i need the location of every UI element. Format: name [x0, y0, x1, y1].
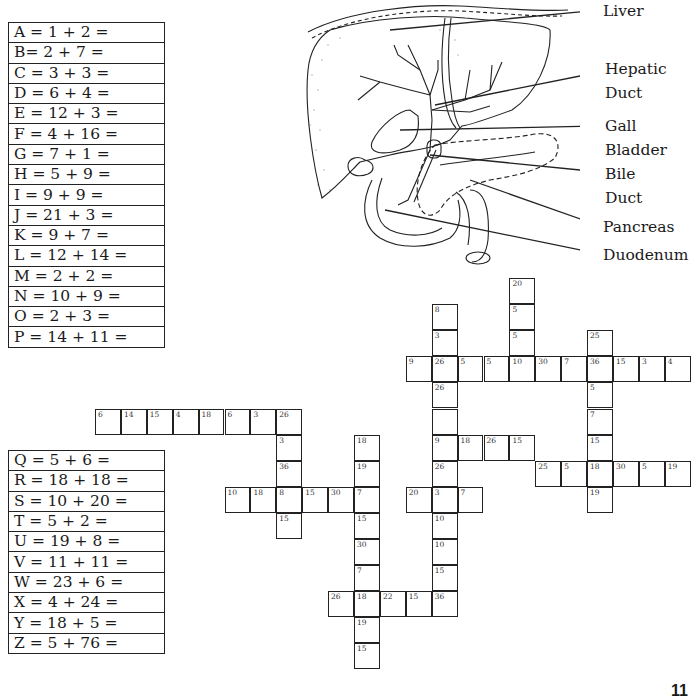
crossword-cell[interactable]: 26: [432, 382, 458, 408]
decoder-key-top: A = 1 + 2 =B= 2 + 7 =C = 3 + 3 =D = 6 + …: [8, 22, 165, 348]
crossword-cell[interactable]: 26: [432, 356, 458, 382]
crossword-cell[interactable]: 18: [354, 435, 380, 461]
page-number: 11: [671, 682, 688, 698]
key-equation: Y = 18 + 5 =: [9, 613, 165, 633]
crossword-cell[interactable]: 36: [587, 356, 613, 382]
crossword-cell[interactable]: 7: [587, 409, 613, 435]
crossword-cell[interactable]: 15: [147, 409, 173, 435]
crossword-cell[interactable]: 4: [665, 356, 691, 382]
key-equation: P = 14 + 11 =: [9, 327, 165, 347]
cell-code-number: 3: [279, 437, 284, 445]
crossword-cell[interactable]: 5: [587, 382, 613, 408]
crossword-cell[interactable]: 4: [173, 409, 199, 435]
cell-code-number: 26: [331, 593, 341, 601]
cell-code-number: 25: [590, 332, 600, 340]
cell-code-number: 36: [279, 463, 289, 471]
crossword-cell[interactable]: 7: [561, 356, 587, 382]
key-equation: S = 10 + 20 =: [9, 491, 165, 511]
crossword-cell[interactable]: 36: [432, 591, 458, 617]
crossword-cell[interactable]: 3: [250, 409, 276, 435]
crossword-cell[interactable]: 19: [587, 487, 613, 513]
crossword-cell[interactable]: 18: [354, 591, 380, 617]
crossword-cell[interactable]: 26: [484, 435, 510, 461]
crossword-cell[interactable]: 25: [535, 461, 561, 487]
cell-code-number: 5: [642, 463, 647, 471]
crossword-cell[interactable]: 19: [354, 461, 380, 487]
cell-code-number: 30: [357, 541, 367, 549]
crossword-cell[interactable]: 25: [587, 330, 613, 356]
crossword-cell[interactable]: 15: [406, 591, 432, 617]
cell-code-number: 15: [279, 515, 289, 523]
crossword-cell[interactable]: 18: [587, 461, 613, 487]
cell-code-number: 7: [564, 358, 569, 366]
cell-code-number: 15: [435, 567, 445, 575]
crossword-cell[interactable]: 8: [276, 487, 302, 513]
label-duodenum: Duodenum: [603, 246, 689, 265]
crossword-cell[interactable]: 15: [432, 565, 458, 591]
crossword-cell[interactable]: 18: [458, 435, 484, 461]
key-equation: I = 9 + 9 =: [9, 185, 165, 205]
crossword-cell[interactable]: 10: [509, 356, 535, 382]
key-row-w: W = 23 + 6 =: [9, 572, 165, 592]
cell-code-number: 26: [435, 384, 445, 392]
crossword-cell[interactable]: 15: [587, 435, 613, 461]
cell-code-number: 26: [435, 463, 445, 471]
crossword-cell[interactable]: 15: [354, 643, 380, 669]
crossword-cell[interactable]: 10: [432, 539, 458, 565]
crossword-cell[interactable]: 5: [484, 356, 510, 382]
crossword-cell[interactable]: 5: [639, 461, 665, 487]
crossword-cell[interactable]: 3: [432, 330, 458, 356]
crossword-cell[interactable]: 18: [250, 487, 276, 513]
crossword-cell[interactable]: 30: [328, 487, 354, 513]
key-row-t: T = 5 + 2 =: [9, 511, 165, 531]
crossword-cell[interactable]: 5: [509, 304, 535, 330]
crossword-cell[interactable]: 26: [432, 461, 458, 487]
crossword-cell[interactable]: 20: [509, 278, 535, 304]
crossword-cell[interactable]: [432, 409, 458, 435]
crossword-cell[interactable]: 26: [328, 591, 354, 617]
crossword-cell[interactable]: 10: [432, 513, 458, 539]
crossword-cell[interactable]: 8: [432, 304, 458, 330]
crossword-cell[interactable]: 19: [354, 617, 380, 643]
crossword-cell[interactable]: 3: [276, 435, 302, 461]
cell-code-number: 36: [590, 358, 600, 366]
crossword-cell[interactable]: 9: [406, 356, 432, 382]
label-gall-bladder-1: Gall: [605, 117, 637, 136]
crossword-cell[interactable]: 30: [354, 539, 380, 565]
crossword-cell[interactable]: 9: [432, 435, 458, 461]
crossword-cell[interactable]: 20: [406, 487, 432, 513]
crossword-cell[interactable]: 15: [302, 487, 328, 513]
crossword-cell[interactable]: 15: [354, 513, 380, 539]
crossword-cell[interactable]: 15: [276, 513, 302, 539]
crossword-cell[interactable]: 7: [354, 487, 380, 513]
crossword-cell[interactable]: 7: [458, 487, 484, 513]
crossword-cell[interactable]: 22: [380, 591, 406, 617]
crossword-cell[interactable]: 10: [225, 487, 251, 513]
crossword-cell[interactable]: 6: [95, 409, 121, 435]
crossword-cell[interactable]: 26: [276, 409, 302, 435]
label-hepatic-duct-2: Duct: [605, 84, 642, 103]
crossword-cell[interactable]: 6: [225, 409, 251, 435]
key-equation: M = 2 + 2 =: [9, 266, 165, 286]
cell-code-number: 18: [590, 463, 600, 471]
crossword-cell[interactable]: 5: [561, 461, 587, 487]
crossword-cell[interactable]: 5: [509, 330, 535, 356]
crossword-cell[interactable]: 14: [121, 409, 147, 435]
crossword-cell[interactable]: 15: [613, 356, 639, 382]
key-equation: B= 2 + 7 =: [9, 43, 165, 63]
key-row-e: E = 12 + 3 =: [9, 104, 165, 124]
crossword-cell[interactable]: 30: [613, 461, 639, 487]
cell-code-number: 30: [538, 358, 548, 366]
key-row-y: Y = 18 + 5 =: [9, 613, 165, 633]
crossword-cell[interactable]: 7: [354, 565, 380, 591]
crossword-cell[interactable]: 18: [199, 409, 225, 435]
crossword-cell[interactable]: 5: [458, 356, 484, 382]
crossword-cell[interactable]: 3: [432, 487, 458, 513]
crossword-cell[interactable]: 19: [665, 461, 691, 487]
crossword-cell[interactable]: 36: [276, 461, 302, 487]
crossword-cell[interactable]: 3: [639, 356, 665, 382]
cell-code-number: 5: [564, 463, 569, 471]
cell-code-number: 26: [435, 358, 445, 366]
crossword-cell[interactable]: 30: [535, 356, 561, 382]
crossword-cell[interactable]: 15: [509, 435, 535, 461]
